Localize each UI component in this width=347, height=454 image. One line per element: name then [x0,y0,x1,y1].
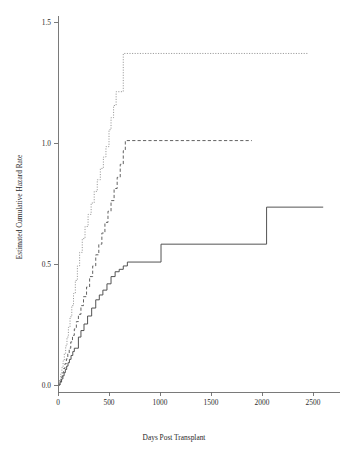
y-axis-ticks: 0.00.51.01.5 [42,18,58,390]
y-tick-label: 1.0 [42,139,52,148]
x-tick-label: 2000 [255,398,270,407]
x-axis-title: Days Post Transplant [143,433,207,442]
x-tick-label: 1000 [153,398,168,407]
series-group-1-solid [58,207,323,385]
y-axis-title: Estimated Cumulative Hazard Rate [15,154,24,259]
axes-group [58,16,340,392]
y-tick-label: 0.0 [42,381,52,390]
series-group-2-dashed [58,141,252,385]
x-tick-label: 500 [103,398,114,407]
x-axis-ticks: 05001000150020002500 [56,392,321,407]
y-tick-label: 0.5 [42,260,52,269]
chart-svg: 0.00.51.01.5 05001000150020002500 Days P… [0,0,347,454]
x-tick-label: 2500 [306,398,321,407]
hazard-rate-chart: 0.00.51.01.5 05001000150020002500 Days P… [0,0,347,454]
x-tick-label: 0 [56,398,60,407]
x-tick-label: 1500 [204,398,219,407]
y-tick-label: 1.5 [42,18,52,27]
series-group-3-dotted [58,53,308,385]
series-group [58,53,323,385]
